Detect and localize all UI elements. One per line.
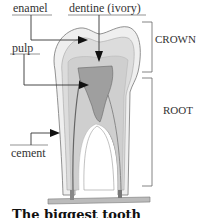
crown-bracket	[142, 22, 152, 72]
label-pulp: pulp	[12, 42, 33, 54]
root-bracket	[142, 78, 152, 186]
label-enamel: enamel	[13, 2, 48, 14]
label-crown: CROWN	[155, 33, 196, 45]
label-root: ROOT	[163, 104, 193, 116]
caption: The biggest tooth	[12, 207, 141, 218]
label-dentine: dentine (ivory)	[69, 2, 141, 14]
label-cement: cement	[11, 147, 46, 159]
cement-arrow	[50, 129, 60, 137]
